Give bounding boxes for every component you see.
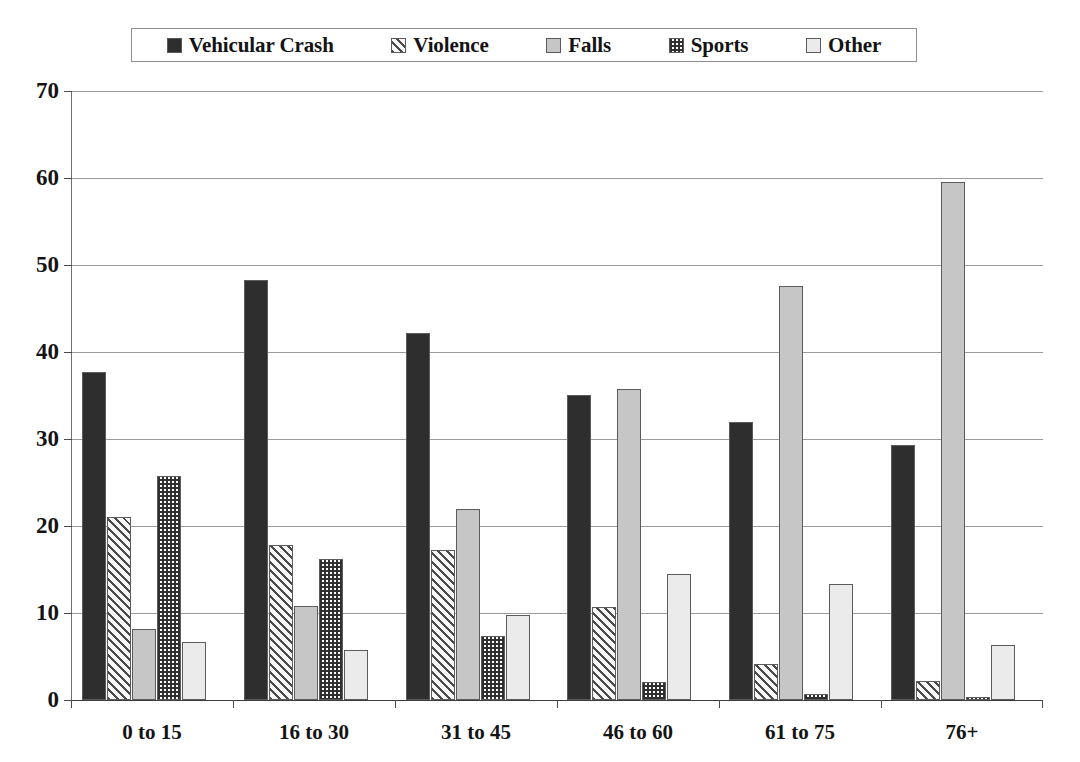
legend-swatch-icon [669, 38, 684, 53]
x-axis-tick-label: 46 to 60 [557, 722, 719, 743]
bar[interactable] [667, 574, 691, 700]
y-axis-tick-label: 0 [48, 688, 60, 711]
bar[interactable] [991, 645, 1015, 700]
x-axis-category: 61 to 75 [719, 700, 881, 746]
bar[interactable] [754, 664, 778, 700]
x-axis-tick [557, 700, 558, 708]
x-axis-category: 0 to 15 [71, 700, 233, 746]
bar-group [557, 91, 719, 700]
bar[interactable] [481, 636, 505, 700]
bar[interactable] [344, 650, 368, 700]
x-axis-tick-label: 76+ [881, 722, 1043, 743]
bar[interactable] [319, 559, 343, 700]
bar-group [72, 91, 234, 700]
legend-label: Falls [568, 35, 611, 56]
x-axis-tick [719, 700, 720, 708]
y-axis-tick-label: 70 [36, 79, 59, 102]
x-axis-tick-label: 61 to 75 [719, 722, 881, 743]
legend-swatch-icon [546, 38, 561, 53]
x-axis-category: 76+ [881, 700, 1043, 746]
y-axis-tick [64, 178, 72, 179]
bar[interactable] [506, 615, 530, 700]
x-axis-tick-label: 16 to 30 [233, 722, 395, 743]
x-axis-category: 31 to 45 [395, 700, 557, 746]
legend-swatch-icon [167, 38, 182, 53]
bar[interactable] [941, 182, 965, 700]
legend-entry[interactable]: Violence [391, 35, 488, 56]
y-axis-tick [64, 439, 72, 440]
bar-group [396, 91, 558, 700]
grouped-bar-chart: Vehicular CrashViolenceFallsSportsOther … [0, 0, 1080, 762]
legend-entry[interactable]: Vehicular Crash [167, 35, 334, 56]
bar[interactable] [916, 681, 940, 700]
legend-swatch-icon [806, 38, 821, 53]
plot-area: 010203040506070 [71, 91, 1043, 700]
bar[interactable] [132, 629, 156, 700]
bar-group [234, 91, 396, 700]
bar[interactable] [82, 372, 106, 700]
legend-entry[interactable]: Falls [546, 35, 611, 56]
y-axis-tick-label: 30 [36, 427, 59, 450]
y-axis-tick [64, 91, 72, 92]
x-axis-tick [71, 700, 72, 708]
bar[interactable] [406, 333, 430, 700]
legend-label: Violence [413, 35, 488, 56]
x-axis-category: 46 to 60 [557, 700, 719, 746]
bar[interactable] [729, 422, 753, 700]
x-axis-tick [395, 700, 396, 708]
x-axis-tick-label: 0 to 15 [71, 722, 233, 743]
bar[interactable] [779, 286, 803, 700]
bar[interactable] [567, 395, 591, 700]
y-axis-tick [64, 526, 72, 527]
bar-group [881, 91, 1043, 700]
legend-label: Other [828, 35, 881, 56]
bar[interactable] [107, 517, 131, 700]
bar[interactable] [592, 607, 616, 700]
legend-label: Sports [691, 35, 749, 56]
bar-groups-layer [72, 91, 1043, 700]
y-axis-tick [64, 613, 72, 614]
bar[interactable] [269, 545, 293, 700]
y-axis-tick-label: 10 [36, 601, 59, 624]
bar[interactable] [642, 682, 666, 700]
bar[interactable] [431, 550, 455, 700]
bar[interactable] [182, 642, 206, 700]
y-axis-tick-label: 60 [36, 166, 59, 189]
x-axis-tick [1042, 700, 1043, 708]
bar[interactable] [157, 476, 181, 700]
bar[interactable] [617, 389, 641, 700]
bar[interactable] [244, 280, 268, 700]
y-axis-tick-label: 40 [36, 340, 59, 363]
legend-entry[interactable]: Sports [669, 35, 749, 56]
bar-group [719, 91, 881, 700]
x-axis: 0 to 1516 to 3031 to 4546 to 6061 to 757… [71, 700, 1043, 746]
bar[interactable] [829, 584, 853, 700]
y-axis-tick [64, 352, 72, 353]
x-axis-category: 16 to 30 [233, 700, 395, 746]
bar[interactable] [456, 509, 480, 700]
x-axis-tick [881, 700, 882, 708]
y-axis-tick-label: 50 [36, 253, 59, 276]
x-axis-tick-label: 31 to 45 [395, 722, 557, 743]
bar[interactable] [891, 445, 915, 700]
y-axis-tick-label: 20 [36, 514, 59, 537]
bar[interactable] [294, 606, 318, 700]
legend-entry[interactable]: Other [806, 35, 881, 56]
x-axis-tick [233, 700, 234, 708]
legend-label: Vehicular Crash [189, 35, 334, 56]
y-axis-tick [64, 265, 72, 266]
chart-legend: Vehicular CrashViolenceFallsSportsOther [131, 28, 917, 62]
legend-swatch-icon [391, 38, 406, 53]
